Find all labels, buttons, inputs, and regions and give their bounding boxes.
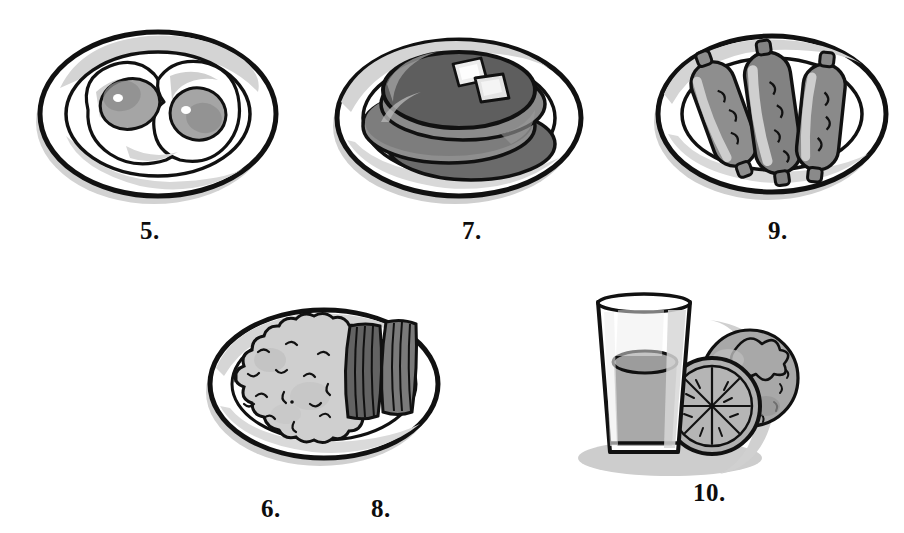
item-label-8: 8. [371,496,391,521]
worksheet-page: 5. [0,0,904,533]
juice-glass-icon [560,280,820,480]
item-label-6: 6. [261,496,281,521]
juice-glass [598,294,690,452]
item-sausages[interactable]: 9. [650,18,900,208]
item-pancakes[interactable]: 7. [325,18,595,208]
item-fried-eggs[interactable]: 5. [30,18,290,208]
item-label-5: 5. [140,218,160,243]
bacon-shape [345,320,416,418]
item-label-7: 7. [462,218,482,243]
item-label-10: 10. [693,480,726,505]
pancakes-icon [325,18,595,208]
item-orange-juice[interactable]: 10. [560,280,820,480]
hash-browns-and-bacon-plate[interactable]: 6. 8. [200,296,455,478]
item-label-9: 9. [768,218,788,243]
hash-browns-and-bacon-icon [200,296,455,478]
sausages-icon [650,18,900,208]
fried-eggs-icon [30,18,290,208]
